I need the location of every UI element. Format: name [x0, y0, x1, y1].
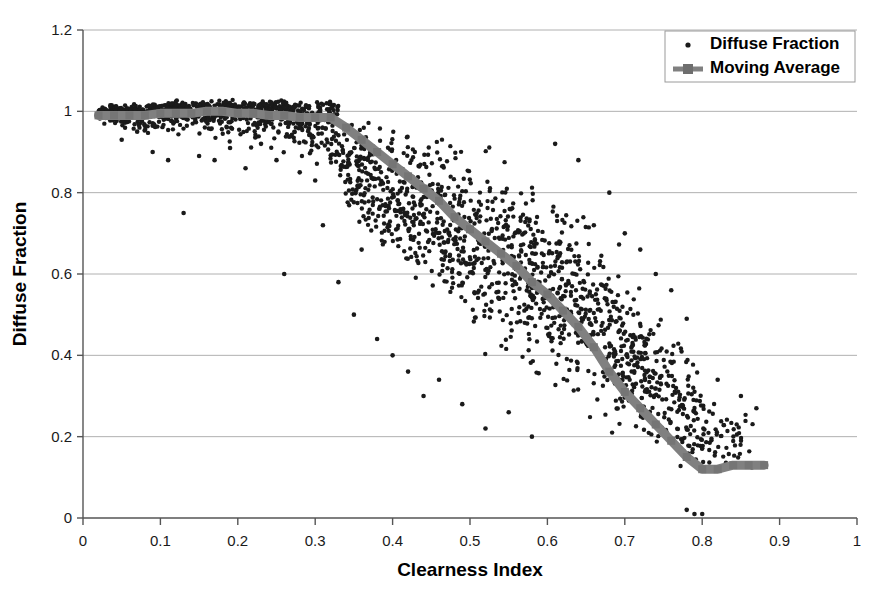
y-tick-label: 0.8 — [51, 184, 72, 201]
y-tick-label: 0 — [64, 509, 72, 526]
legend-label: Moving Average — [710, 58, 840, 77]
legend-square-marker — [683, 64, 693, 74]
x-tick-label: 0.2 — [227, 532, 248, 549]
legend-dot-marker — [685, 42, 690, 47]
scatter-chart: 00.20.40.60.811.2 00.10.20.30.40.50.60.7… — [0, 0, 890, 596]
y-tick-label: 0.4 — [51, 346, 72, 363]
x-tick-label: 0 — [79, 532, 87, 549]
chart-background — [0, 0, 890, 596]
y-tick-label: 0.6 — [51, 265, 72, 282]
x-tick-label: 1 — [853, 532, 861, 549]
x-tick-label: 0.1 — [150, 532, 171, 549]
y-tick-label: 1.2 — [51, 21, 72, 38]
x-tick-label: 0.5 — [460, 532, 481, 549]
x-tick-label: 0.4 — [382, 532, 403, 549]
x-tick-label: 0.8 — [692, 532, 713, 549]
y-axis-title: Diffuse Fraction — [9, 202, 30, 347]
chart-container: 00.20.40.60.811.2 00.10.20.30.40.50.60.7… — [0, 0, 890, 596]
x-tick-label: 0.3 — [305, 532, 326, 549]
legend: Diffuse FractionMoving Average — [665, 31, 855, 82]
x-axis-title: Clearness Index — [397, 559, 543, 580]
y-tick-label: 0.2 — [51, 428, 72, 445]
y-tick-label: 1 — [64, 102, 72, 119]
x-tick-label: 0.9 — [769, 532, 790, 549]
x-tick-label: 0.7 — [614, 532, 635, 549]
x-tick-label: 0.6 — [537, 532, 558, 549]
legend-label: Diffuse Fraction — [710, 34, 839, 53]
